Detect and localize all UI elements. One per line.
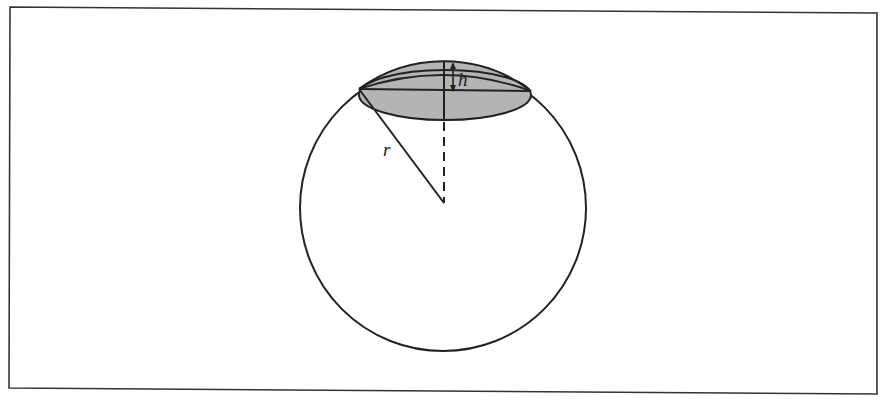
sphere-cap-diagram (0, 0, 884, 402)
radius-label: r (383, 140, 390, 159)
height-label: h (458, 70, 468, 89)
